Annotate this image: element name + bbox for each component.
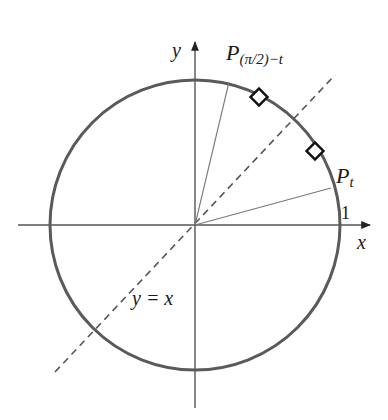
unit-length-label: 1 — [341, 204, 350, 222]
diamond-marker-lower — [307, 143, 324, 160]
y-axis-label: y — [172, 40, 181, 60]
point-t-main: P — [336, 163, 349, 188]
radius-to-p-t — [195, 188, 331, 225]
point-complement-subscript: (π/2)−t — [239, 51, 282, 67]
line-equation-label: y = x — [132, 288, 173, 308]
radius-to-p-complement — [195, 82, 229, 225]
point-complement-main: P — [226, 40, 239, 65]
x-axis-label: x — [357, 232, 366, 252]
point-t-label: Pt — [336, 165, 354, 187]
point-complement-label: P(π/2)−t — [226, 42, 283, 64]
unit-circle-diagram — [0, 0, 388, 420]
point-t-subscript: t — [349, 174, 353, 190]
